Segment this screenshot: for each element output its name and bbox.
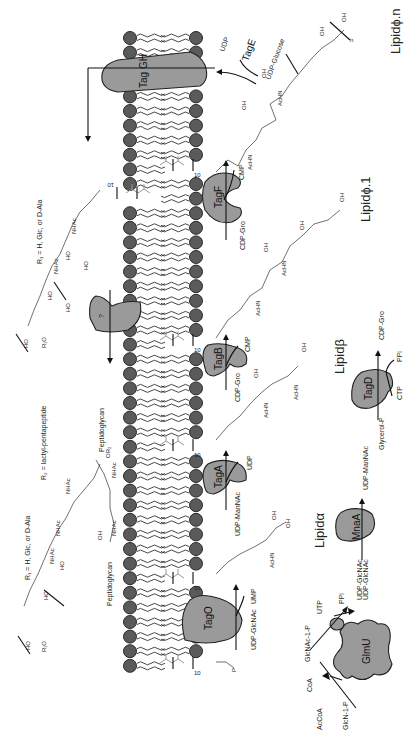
taga-enzyme: TagA UDP UDP-ManNAc bbox=[203, 450, 253, 536]
glmu-label: GlmU bbox=[361, 638, 372, 664]
chem-label: AcHN bbox=[263, 402, 269, 418]
r2-definition: R₂ = lactyl-pentapeptide bbox=[40, 405, 48, 480]
wta-pathway-diagram: 10 10 10 10 10 10 bbox=[0, 0, 408, 746]
udp-label: UDP bbox=[246, 455, 253, 470]
tago-label: TagO bbox=[203, 606, 214, 630]
repeat-count-label: 10 bbox=[194, 452, 201, 458]
utp-label: UTP bbox=[316, 600, 323, 614]
unknown-enzyme-label: ? bbox=[98, 314, 105, 318]
chem-label: OH bbox=[341, 13, 347, 22]
peptidoglycan-label: Peptidoglycan bbox=[98, 408, 106, 452]
lipid-phi1-label: Lipidϕ.1 bbox=[358, 176, 373, 222]
taga-label: TagA bbox=[213, 465, 224, 488]
acoa-label: AcCoA bbox=[316, 708, 323, 730]
chem-label: OH bbox=[253, 369, 259, 378]
repeat-count-label: 10 bbox=[194, 172, 201, 178]
chem-label: R₁O bbox=[41, 337, 47, 348]
lipid-phin-label: Lipidϕ.n bbox=[388, 8, 403, 54]
wall-teichoic-acid-polymer: NHAc NHAc HO HO HO HO HO R₁O R₁ = H, Glc… bbox=[16, 190, 117, 654]
chem-label: NHAc bbox=[65, 478, 71, 494]
chem-label: OH bbox=[263, 243, 269, 252]
chem-label: NHAc bbox=[111, 462, 117, 478]
chem-label: OH bbox=[97, 531, 103, 540]
chem-label: HO bbox=[25, 641, 31, 650]
tagd-label: TagD bbox=[363, 377, 374, 400]
peptidoglycan-label: Peptidoglycan bbox=[106, 562, 114, 606]
tagb-label: TagB bbox=[213, 347, 224, 370]
ump-label: UMP bbox=[250, 588, 257, 604]
chem-label: P bbox=[231, 668, 237, 672]
chem-label: AcHN bbox=[277, 90, 283, 106]
chem-label: NHAc bbox=[49, 548, 55, 564]
cmp-label: CMP bbox=[238, 164, 245, 180]
ppi-label: PPi bbox=[396, 351, 403, 362]
chem-label: AcHN bbox=[293, 384, 299, 400]
chem-label: OH bbox=[241, 101, 247, 110]
chem-label: R₁O bbox=[41, 641, 47, 652]
cdp-gro-label: CDP-Gro bbox=[378, 311, 385, 340]
tagf-label: TagF bbox=[213, 186, 224, 208]
tagd-enzyme: TagD Glycerol-P CTP PPi CDP-Gro bbox=[352, 311, 403, 450]
udp-glucose-label: UDP-Glucose bbox=[264, 38, 285, 81]
lipid-alpha-label: Lipidα bbox=[312, 513, 327, 548]
coa-label: CoA bbox=[306, 678, 313, 692]
udp-mannac-label: UDP-ManNAc bbox=[362, 446, 369, 490]
udp-glcnac-label: UDP-GlcNAc bbox=[356, 559, 363, 600]
chem-label: OH bbox=[271, 511, 277, 520]
prenyl-anchor-tago-product: 10 bbox=[160, 569, 201, 591]
udp-glcnac-label: UDP-GlcNAc bbox=[250, 609, 257, 650]
chem-label: OR₂ bbox=[105, 446, 111, 458]
lipid-beta-label: Lipidβ bbox=[332, 339, 347, 374]
ppi-label: PPi bbox=[338, 593, 345, 604]
chem-label: NHAc bbox=[111, 520, 117, 536]
taggh-label: Tag GH bbox=[138, 54, 149, 88]
chem-label: OH bbox=[285, 519, 291, 528]
cdp-gro-label: CDP-Gro bbox=[239, 221, 246, 250]
chem-label: HO bbox=[83, 261, 89, 270]
glycerol-p-label: Glycerol-P bbox=[378, 417, 386, 450]
repeat-count-label: 10 bbox=[194, 347, 201, 353]
repeat-count-label: 10 bbox=[194, 670, 201, 676]
prenyl-anchors: 10 10 10 10 10 10 bbox=[107, 156, 202, 676]
tagf-enzyme: TagF CDP-Gro CMP bbox=[203, 160, 247, 250]
r1-definition-top: R₁ = H, Glc, or D-Ala bbox=[36, 199, 43, 264]
chem-label: AcHN bbox=[269, 552, 275, 568]
repeat-count-label: 10 bbox=[194, 585, 201, 591]
chem-label: OH bbox=[301, 343, 307, 352]
tage-enzyme: UDP TagE UDP-Glucose bbox=[216, 36, 286, 84]
chem-label: HO bbox=[65, 251, 71, 260]
cmp-label: CMP bbox=[244, 336, 251, 352]
chem-label: AcHN bbox=[281, 260, 287, 276]
ctp-label: CTP bbox=[396, 386, 403, 400]
repeat-n-label: n bbox=[350, 37, 353, 43]
chem-label: OH bbox=[319, 27, 325, 36]
r1-definition-bottom: R₁ = H, Glc, or D-Ala bbox=[24, 515, 31, 580]
glcnac-1p-label: GlcNAc-1-P bbox=[304, 625, 311, 662]
chem-label: AcHN bbox=[247, 154, 253, 170]
glcn-1p-label: GlcN-1-P bbox=[342, 701, 349, 730]
chem-label: AcHN bbox=[255, 300, 261, 316]
repeat-count-label: 10 bbox=[107, 182, 114, 188]
udp-glcnac-label: UDP-GlcNAc bbox=[362, 559, 369, 600]
chem-label: OH bbox=[299, 221, 305, 230]
mnaa-label: MnaA bbox=[351, 514, 362, 540]
tagb-enzyme: TagB CDP-Gro CMP bbox=[203, 334, 251, 402]
chem-label: OH bbox=[261, 69, 267, 78]
tage-label: TagE bbox=[240, 37, 258, 62]
prenyl-anchor-alpha: 10 bbox=[160, 436, 201, 458]
chem-label: HO bbox=[59, 561, 65, 570]
cdp-gro-label: CDP-Gro bbox=[234, 373, 241, 402]
glmu-enzyme: GlmU GlcN-1-P AcCoA CoA GlcNAc-1-P UTP P… bbox=[304, 559, 392, 730]
chem-label: HO bbox=[23, 339, 29, 348]
udp-mannac-label: UDP-ManNAc bbox=[234, 492, 241, 536]
udp-label: UDP bbox=[218, 36, 230, 53]
chem-label: NHAc bbox=[55, 520, 61, 536]
chem-label: HO bbox=[65, 303, 71, 312]
chem-label: OH bbox=[339, 193, 345, 202]
chem-label: HO bbox=[43, 591, 49, 600]
chem-label: NHAc bbox=[71, 218, 77, 234]
chem-label: NHAc bbox=[53, 258, 59, 274]
chem-label: HO bbox=[47, 291, 53, 300]
